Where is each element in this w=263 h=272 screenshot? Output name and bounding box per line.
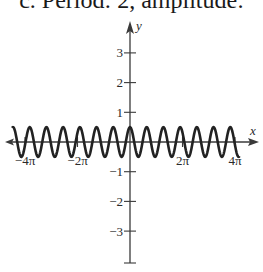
sine-graph: xy 321−1−2−3−4π−2π2π4π [0, 0, 263, 272]
y-tick-label: −3 [109, 224, 123, 239]
y-tick-label: 1 [117, 105, 124, 120]
y-tick-label: −1 [109, 164, 123, 179]
y-tick-label: 3 [117, 45, 124, 60]
y-tick-label: −2 [109, 194, 123, 209]
y-tick-label: 2 [117, 75, 124, 90]
y-axis-label: y [134, 18, 142, 33]
x-tick-label: −4π [15, 153, 36, 168]
x-axis-label: x [249, 123, 256, 138]
x-tick-label: 4π [228, 153, 242, 168]
